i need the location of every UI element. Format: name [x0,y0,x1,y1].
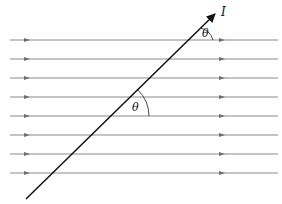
field-arrow-icon [24,133,30,137]
field-arrow-icon [219,38,225,42]
field-arrow-icon [219,95,225,99]
field-arrow-icon [24,76,30,80]
field-line [10,38,278,42]
angle-theta-top: θ [202,27,209,40]
field-line [10,114,278,118]
field-arrow-icon [24,114,30,118]
field-line [10,57,278,61]
current-wire [26,14,215,199]
angle-arc-middle [138,90,149,116]
field-arrow-icon [24,95,30,99]
field-arrow-icon [24,152,30,156]
field-arrow-icon [219,76,225,80]
field-line [10,76,278,80]
field-lines [10,38,278,175]
angle-theta-middle: θ [132,101,139,114]
field-line [10,152,278,156]
field-arrow-icon [219,114,225,118]
field-line [10,133,278,137]
current-label: I [220,5,226,19]
field-arrow-icon [24,57,30,61]
field-arrow-icon [219,171,225,175]
field-arrow-icon [24,38,30,42]
magnetic-field-diagram: I θ θ [0,0,282,204]
field-arrow-icon [219,57,225,61]
field-arrow-icon [219,152,225,156]
field-arrow-icon [219,133,225,137]
field-arrow-icon [24,171,30,175]
